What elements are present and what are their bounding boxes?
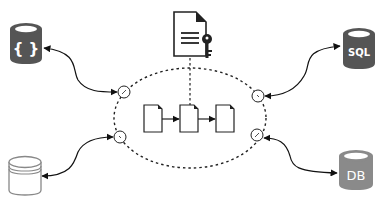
json-database-icon: { } — [10, 23, 42, 64]
connector-db-to-port — [264, 138, 337, 173]
connector-plain-db-to-port — [42, 137, 113, 176]
db-database-icon: DB — [339, 150, 373, 190]
doc-1-icon — [144, 105, 162, 132]
connector-json-to-port — [44, 48, 117, 92]
doc-2-icon — [180, 105, 198, 132]
db-database-label: DB — [347, 168, 366, 183]
port-top-right — [252, 90, 264, 102]
port-bottom-left — [114, 131, 126, 143]
plain-database-icon — [9, 157, 41, 196]
json-database-label: { } — [13, 40, 40, 58]
document-with-key-icon — [174, 12, 212, 58]
diagram-canvas: { } SQL DB — [0, 0, 384, 204]
sql-database-label: SQL — [348, 47, 371, 58]
port-top-left — [118, 86, 130, 98]
connector-sql-to-port — [265, 46, 340, 96]
sql-database-icon: SQL — [343, 28, 375, 69]
doc-3-icon — [216, 105, 234, 132]
port-bottom-right — [251, 129, 263, 141]
